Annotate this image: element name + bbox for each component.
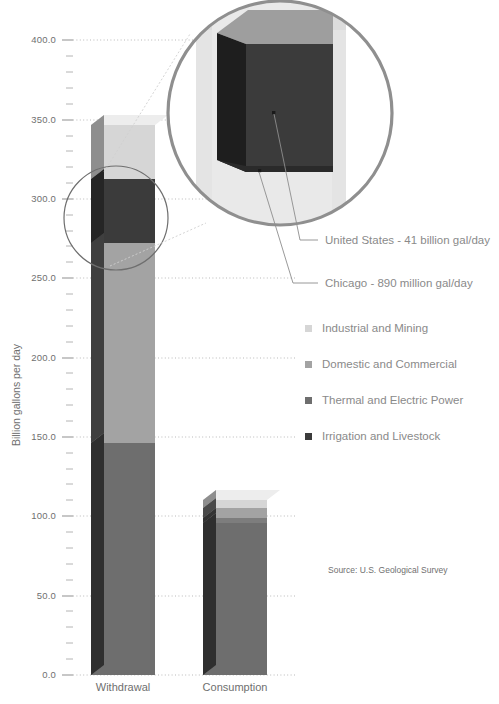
chart-container: 400.0 350.0 300.0 250.0 200.0 150.0 100.… [0, 0, 499, 704]
consumption-irrigation-side [203, 513, 216, 675]
legend-item-irrigation[interactable]: Irrigation and Livestock [305, 430, 441, 442]
legend-swatch-domestic [305, 361, 312, 368]
y-tick-label: 150.0 [31, 431, 56, 442]
legend: Industrial and Mining Domestic and Comme… [305, 322, 463, 442]
legend-item-industrial[interactable]: Industrial and Mining [305, 322, 428, 334]
magnified-front-face [246, 44, 333, 172]
callout-dot-united-states [272, 111, 275, 114]
legend-swatch-irrigation [305, 433, 312, 440]
legend-label-thermal: Thermal and Electric Power [322, 394, 463, 406]
withdrawal-thermal-side [91, 433, 104, 675]
y-tick-label: 250.0 [31, 272, 56, 283]
legend-swatch-thermal [305, 397, 312, 404]
bar-withdrawal[interactable] [91, 115, 168, 675]
y-tick-label: 100.0 [31, 510, 56, 521]
y-tick-label: 400.0 [31, 34, 56, 45]
category-label-consumption: Consumption [203, 681, 268, 693]
bar-consumption[interactable] [203, 490, 280, 675]
detail-magnifier [168, 0, 392, 245]
y-tick-label: 200.0 [31, 352, 56, 363]
callout-label-united-states: United States - 41 billion gal/day [325, 234, 490, 246]
legend-label-industrial: Industrial and Mining [322, 322, 428, 334]
y-tick-label: 300.0 [31, 193, 56, 204]
callout-label-chicago: Chicago - 890 million gal/day [325, 277, 473, 289]
legend-label-domestic: Domestic and Commercial [322, 358, 457, 370]
y-axis-tick-labels: 400.0 350.0 300.0 250.0 200.0 150.0 100.… [31, 34, 56, 680]
legend-label-irrigation: Irrigation and Livestock [322, 430, 441, 442]
callout-dot-chicago [258, 169, 261, 172]
withdrawal-irrigation-side [91, 169, 104, 243]
source-attribution: Source: U.S. Geological Survey [328, 565, 448, 575]
magnified-side-face [217, 33, 246, 172]
legend-item-domestic[interactable]: Domestic and Commercial [305, 358, 457, 370]
category-label-withdrawal: Withdrawal [96, 681, 150, 693]
water-usage-stacked-bar-chart: 400.0 350.0 300.0 250.0 200.0 150.0 100.… [0, 0, 499, 704]
legend-item-thermal[interactable]: Thermal and Electric Power [305, 394, 463, 406]
legend-swatch-industrial [305, 325, 312, 332]
y-axis-title: Billion gallons per day [10, 343, 22, 446]
y-tick-label: 0.0 [42, 669, 56, 680]
y-tick-label: 350.0 [31, 114, 56, 125]
y-tick-label: 50.0 [37, 590, 56, 601]
